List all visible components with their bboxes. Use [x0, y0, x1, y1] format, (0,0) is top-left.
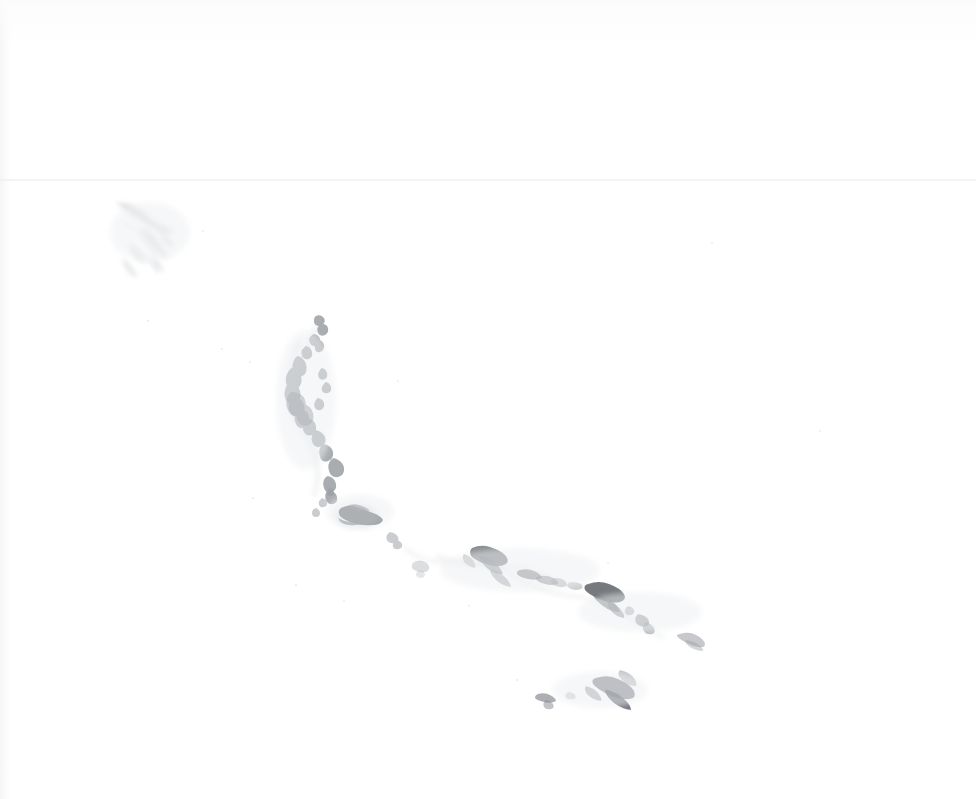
map-layer: [0, 0, 976, 799]
archipelago-map-svg: [0, 0, 976, 799]
paper-bleed-wash: [110, 202, 702, 708]
scan-specks: [147, 230, 821, 681]
scanned-map-page: [0, 0, 976, 799]
